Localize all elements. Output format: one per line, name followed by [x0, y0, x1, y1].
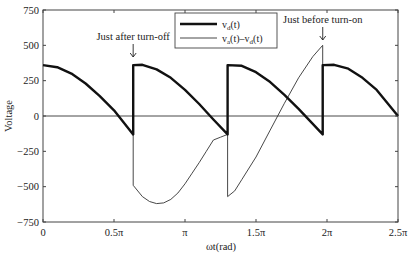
legend-text-part: (t): [231, 19, 240, 31]
x-axis-label: ωt(rad): [206, 241, 237, 253]
x-tick-label: 2π: [322, 227, 333, 238]
series-layer: [43, 45, 398, 203]
y-axis-label: Voltage: [3, 100, 14, 132]
x-tick-label: 2.5π: [389, 227, 408, 238]
annotation-text: Just before turn-on: [283, 14, 363, 25]
legend-text-part: (t)–v: [230, 33, 249, 45]
x-tick-label: 1.5π: [247, 227, 266, 238]
y-tick-label: 250: [23, 75, 39, 86]
x-tick-label: 0: [40, 227, 45, 238]
x-tick-label: π: [182, 227, 188, 238]
y-tick-label: 0: [34, 111, 39, 122]
y-tick-label: −250: [17, 146, 39, 157]
x-tick-label: 0.5π: [105, 227, 124, 238]
y-tick-label: −750: [17, 217, 39, 228]
legend: vd(t)va(t)–vd(t): [175, 13, 277, 48]
y-tick-label: 750: [23, 5, 39, 16]
y-tick-label: 500: [23, 40, 39, 51]
chart: 00.5ππ1.5π2π2.5π7505002500−250−500−750 v…: [0, 0, 412, 257]
y-tick-label: −500: [17, 181, 39, 192]
series-line-v-d-t-: [43, 65, 398, 135]
legend-text-part: (t): [253, 33, 262, 45]
annotation-text: Just after turn-off: [97, 31, 171, 42]
